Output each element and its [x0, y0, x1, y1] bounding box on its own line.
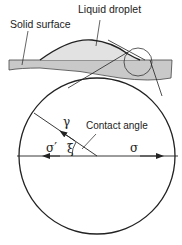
solid-surface-slab [9, 60, 172, 80]
contact-angle-label: Contact angle [86, 120, 148, 131]
solid-surface-label: Solid surface [10, 18, 71, 30]
xi-symbol: ξ [67, 142, 74, 156]
liquid-droplet-label: Liquid droplet [78, 3, 141, 15]
sigma-prime-symbol: σ′ [46, 141, 57, 155]
gamma-arrow [61, 132, 75, 142]
contact-angle-pointer [82, 134, 96, 149]
contact-angle-diagram: Solid surface Liquid droplet Contact ang… [0, 0, 182, 245]
sigma-symbol: σ [130, 141, 138, 155]
gamma-symbol: γ [63, 115, 70, 129]
